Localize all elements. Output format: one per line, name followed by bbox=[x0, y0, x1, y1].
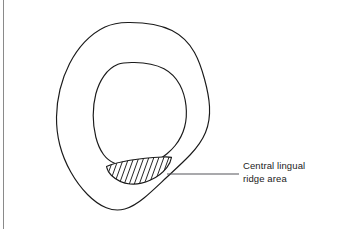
callout-label-text: Central lingual ridge area bbox=[243, 160, 338, 185]
inner-contour-path bbox=[93, 62, 186, 166]
figure-page: Central lingual ridge area bbox=[0, 0, 341, 229]
tooth-cross-section-diagram bbox=[0, 0, 341, 229]
